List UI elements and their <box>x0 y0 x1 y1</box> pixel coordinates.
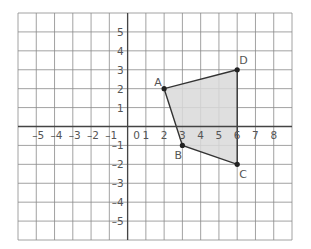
vertex-label-c: C <box>239 168 247 181</box>
vertex-label-b: B <box>174 149 182 162</box>
x-tick-label: 7 <box>252 129 259 141</box>
y-tick-label: –1 <box>112 139 124 151</box>
coordinate-grid: –5–4–3–2–101234567854321–1–2–3–4–5 ABCD <box>0 0 311 249</box>
axes <box>18 13 292 240</box>
x-tick-label: –2 <box>87 129 99 141</box>
x-tick-label: –5 <box>32 129 44 141</box>
x-tick-label: 4 <box>197 129 204 141</box>
y-tick-label: 5 <box>117 26 124 38</box>
x-tick-label: 2 <box>161 129 168 141</box>
y-tick-label: –4 <box>112 196 124 208</box>
y-tick-label: 1 <box>117 102 124 114</box>
x-tick-label: 0 <box>133 129 140 141</box>
x-tick-label: 8 <box>270 129 277 141</box>
y-tick-label: 4 <box>117 45 124 57</box>
x-tick-label: 3 <box>179 129 186 141</box>
y-tick-label: –2 <box>112 158 124 170</box>
x-tick-label: 1 <box>143 129 150 141</box>
y-tick-label: –5 <box>112 215 124 227</box>
vertex-point-b <box>180 143 185 148</box>
coordinate-plane-figure: –5–4–3–2–101234567854321–1–2–3–4–5 ABCD <box>0 0 311 249</box>
x-tick-label: –3 <box>69 129 81 141</box>
vertex-point-a <box>162 86 167 91</box>
x-tick-label: –4 <box>51 129 63 141</box>
x-tick-label: 6 <box>234 129 241 141</box>
vertex-label-d: D <box>239 54 247 67</box>
y-tick-label: –3 <box>112 177 124 189</box>
y-tick-label: 2 <box>117 83 124 95</box>
vertex-point-c <box>235 162 240 167</box>
x-tick-label: 5 <box>216 129 223 141</box>
vertex-label-a: A <box>154 76 162 89</box>
y-tick-label: 3 <box>117 64 124 76</box>
vertex-point-d <box>235 67 240 72</box>
